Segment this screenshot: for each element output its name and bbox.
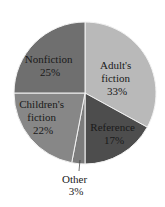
pie-slices [14,22,156,164]
label-other: Other 3% [62,173,90,197]
pie-chart: Adult's fiction 33% Reference 17% Other … [0,0,165,207]
